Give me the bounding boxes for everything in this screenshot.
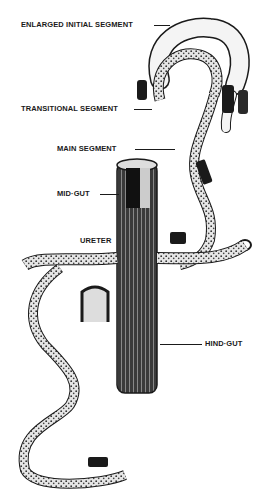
- label-mid-gut: MID·GUT: [57, 189, 90, 198]
- leader-mid-gut: [100, 194, 119, 195]
- label-main-segment: MAIN SEGMENT: [57, 144, 117, 153]
- label-ureter: URETER: [80, 236, 111, 245]
- malpighian-tubule-diagram: [0, 0, 273, 501]
- label-transitional-segment: TRANSITIONAL SEGMENT: [21, 104, 118, 113]
- main-segment-shape: [180, 95, 251, 265]
- leader-transitional-segment: [134, 109, 152, 110]
- leader-main-segment: [135, 149, 175, 150]
- gut-tube-shape: [117, 159, 157, 393]
- leader-hind-gut: [160, 344, 202, 345]
- lower-tubule-shape: [24, 268, 125, 484]
- label-hind-gut: HIND·GUT: [205, 339, 242, 348]
- label-enlarged-initial-segment: ENLARGED INITIAL SEGMENT: [21, 20, 133, 29]
- leader-enlarged-initial-segment: [154, 25, 170, 26]
